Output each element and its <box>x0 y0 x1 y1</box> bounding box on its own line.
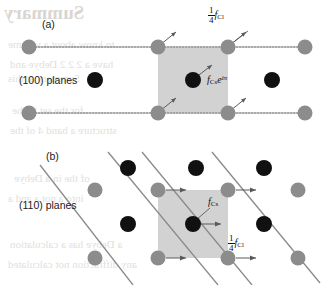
atom-cl <box>221 183 236 198</box>
planes-label-110: (110) planes <box>19 199 77 211</box>
planes-label-100: (100) planes <box>19 74 77 86</box>
panel-label-a: (a) <box>42 18 55 30</box>
atom-cl <box>88 251 103 266</box>
atom-cl <box>291 251 306 266</box>
quarter-fcl-label-b: 1 4 fCl <box>228 234 244 253</box>
atom-cs <box>87 72 103 88</box>
fcs-phase-label-a: fCseiπ <box>207 74 227 86</box>
plane-line-110 <box>40 165 133 285</box>
atom-cs <box>256 216 272 232</box>
atom-cl <box>22 40 37 55</box>
atom-cs <box>264 72 280 88</box>
atom-cs <box>185 72 201 88</box>
atom-cs <box>188 160 204 176</box>
atom-cl <box>291 183 306 198</box>
panel-label-b: (b) <box>46 150 59 162</box>
atom-cl <box>151 40 166 55</box>
atom-cl <box>221 106 236 121</box>
atom-cl <box>151 106 166 121</box>
figure-cscl-structure-factor: Summary to know about a volume have a 2 … <box>0 0 321 285</box>
atom-cs <box>185 216 201 232</box>
fcs-label-b: fCs <box>208 196 218 208</box>
atom-cs <box>120 160 136 176</box>
atom-cl <box>298 40 313 55</box>
atom-cl <box>298 106 313 121</box>
atom-cs <box>120 216 136 232</box>
quarter-fcl-label-a: 1 4 fCl <box>208 6 224 25</box>
atom-cl <box>88 183 103 198</box>
atom-cl <box>151 183 166 198</box>
crystal-planes-diagram <box>0 0 321 285</box>
atom-cl <box>22 106 37 121</box>
atom-cl <box>151 251 166 266</box>
panel-b-group <box>40 152 320 285</box>
atom-cl <box>221 40 236 55</box>
atom-cs <box>256 160 272 176</box>
